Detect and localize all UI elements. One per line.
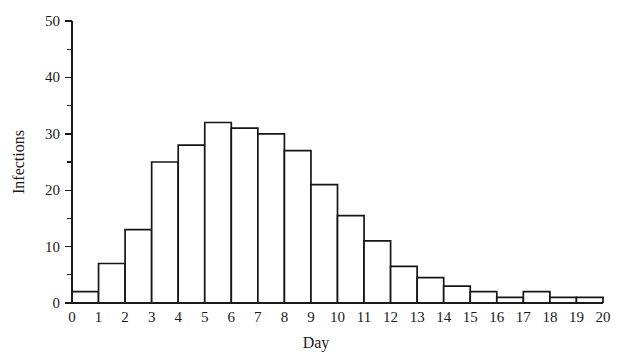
y-tick-label-20: 20 <box>45 182 60 198</box>
x-tick-label-9: 9 <box>307 309 315 325</box>
x-tick-label-14: 14 <box>436 309 452 325</box>
chart-canvas: 01020304050 0123456789101112131415161718… <box>0 0 628 357</box>
x-tick-label-4: 4 <box>174 309 182 325</box>
x-tick-label-18: 18 <box>542 309 557 325</box>
y-axis-ticks <box>65 21 72 303</box>
bar-day-19 <box>550 297 577 303</box>
x-tick-label-1: 1 <box>95 309 103 325</box>
x-tick-label-2: 2 <box>121 309 129 325</box>
bar-day-2 <box>99 264 126 303</box>
y-tick-label-40: 40 <box>45 69 60 85</box>
bar-day-17 <box>497 297 524 303</box>
x-tick-label-15: 15 <box>463 309 478 325</box>
x-tick-label-10: 10 <box>330 309 345 325</box>
bar-day-1 <box>72 292 99 303</box>
y-tick-label-30: 30 <box>45 126 60 142</box>
x-tick-label-7: 7 <box>254 309 262 325</box>
x-tick-label-6: 6 <box>228 309 236 325</box>
x-tick-label-16: 16 <box>489 309 505 325</box>
bar-day-13 <box>391 266 418 303</box>
bar-day-3 <box>125 230 152 303</box>
bar-day-11 <box>338 216 365 303</box>
x-tick-label-13: 13 <box>410 309 425 325</box>
bars-group <box>72 123 603 303</box>
x-tick-label-19: 19 <box>569 309 584 325</box>
x-tick-label-3: 3 <box>148 309 156 325</box>
bar-day-20 <box>576 297 603 303</box>
bar-day-9 <box>284 151 311 303</box>
bar-day-12 <box>364 241 391 303</box>
y-tick-label-10: 10 <box>45 239 60 255</box>
bar-day-15 <box>444 286 471 303</box>
x-tick-label-17: 17 <box>516 309 532 325</box>
bar-day-10 <box>311 185 338 303</box>
bar-day-7 <box>231 128 258 303</box>
bar-day-6 <box>205 123 232 303</box>
x-tick-label-8: 8 <box>281 309 289 325</box>
y-axis-title: Infections <box>10 130 27 194</box>
x-tick-label-12: 12 <box>383 309 398 325</box>
bar-day-5 <box>178 145 205 303</box>
bar-day-18 <box>523 292 550 303</box>
x-tick-label-0: 0 <box>68 309 76 325</box>
x-axis-tick-labels: 01234567891011121314151617181920 <box>68 309 610 325</box>
x-tick-label-20: 20 <box>596 309 611 325</box>
y-tick-label-50: 50 <box>45 13 60 29</box>
bar-day-16 <box>470 292 497 303</box>
x-tick-label-11: 11 <box>357 309 371 325</box>
bar-day-14 <box>417 278 444 303</box>
histogram-chart: 01020304050 0123456789101112131415161718… <box>0 0 628 357</box>
y-tick-label-0: 0 <box>53 295 61 311</box>
bar-day-4 <box>152 162 179 303</box>
y-axis-tick-labels: 01020304050 <box>45 13 60 311</box>
x-tick-label-5: 5 <box>201 309 209 325</box>
x-axis-title: Day <box>303 334 330 352</box>
bar-day-8 <box>258 134 285 303</box>
